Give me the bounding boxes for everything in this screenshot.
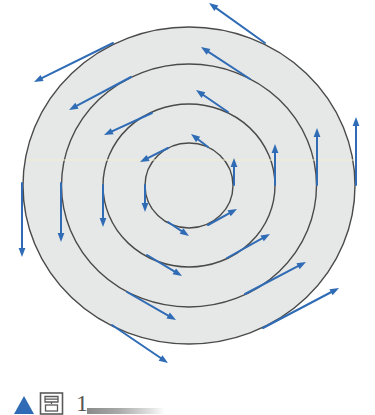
- concentric-circles: [23, 27, 355, 344]
- triangle-marker-icon: [14, 396, 34, 414]
- outer-circle: [23, 27, 355, 344]
- arrowhead-icon: [159, 355, 168, 363]
- arrowhead-icon: [34, 75, 44, 82]
- figure-character-icon: [39, 392, 64, 415]
- arrowhead-icon: [19, 248, 26, 257]
- figure-caption: ▲ 图 1: [0, 388, 375, 415]
- caption-gradient-bar: [87, 408, 165, 414]
- caption-label: 图: [0, 388, 1, 389]
- arrowhead-icon: [329, 288, 339, 295]
- caption-marker-text: ▲: [0, 388, 1, 389]
- arrowhead-icon: [353, 117, 360, 126]
- concentric-circles-velocity-diagram: [0, 0, 375, 415]
